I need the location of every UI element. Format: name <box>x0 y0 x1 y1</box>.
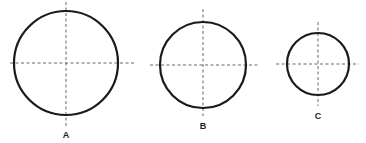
label-a: A <box>63 130 70 140</box>
label-b: B <box>200 121 207 131</box>
circle-group-b: B <box>150 9 260 131</box>
label-c: C <box>315 111 322 121</box>
circle-group-a: A <box>10 2 135 140</box>
circle-group-c: C <box>276 22 359 121</box>
circle-c <box>287 33 349 95</box>
circles-diagram: A B C <box>0 0 366 143</box>
